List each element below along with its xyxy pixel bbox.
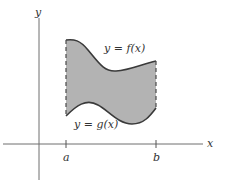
tick-b-label: b [153, 151, 160, 164]
upper-curve-label: y = f(x) [103, 42, 145, 55]
y-axis-label: y [34, 6, 42, 19]
x-axis-label: x [207, 137, 214, 150]
tick-a-label: a [63, 151, 70, 164]
lower-curve-label: y = g(x) [73, 118, 118, 131]
figure-canvas: y x a b y = f(x) y = g(x) [0, 0, 226, 185]
